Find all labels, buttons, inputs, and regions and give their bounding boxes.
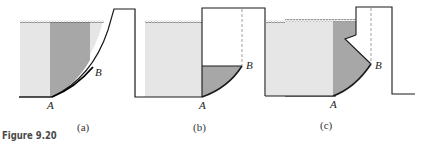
point-b-label-c: B — [375, 60, 382, 71]
figure-title: Figure 9.20 — [2, 131, 57, 141]
pressure-prism-b — [202, 66, 242, 97]
point-b-label-a: B — [95, 67, 102, 78]
point-a-label-c: A — [330, 99, 337, 110]
caption-c: (c) — [320, 120, 332, 131]
point-a-label-b: A — [199, 100, 206, 111]
caption-a: (a) — [77, 122, 89, 133]
water-surface-a — [20, 20, 104, 23]
figure-diagram — [0, 0, 433, 142]
point-a-label-a: A — [47, 100, 54, 111]
point-b-label-b: B — [246, 60, 253, 71]
panel-a — [19, 9, 145, 97]
water-region-b-left — [145, 22, 202, 97]
panel-c — [285, 7, 415, 96]
caption-b: (b) — [193, 122, 206, 133]
